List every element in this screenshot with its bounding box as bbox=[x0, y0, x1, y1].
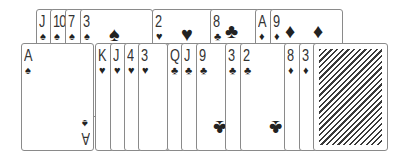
club-icon: ♣ bbox=[200, 65, 207, 76]
diamond-icon: ♦ bbox=[313, 21, 323, 41]
card-rank: 3 bbox=[83, 13, 89, 30]
card-rank: K bbox=[98, 47, 106, 64]
heart-icon: ♥ bbox=[128, 65, 135, 76]
club-icon: ♣ bbox=[229, 65, 236, 76]
heart-icon: ♥ bbox=[181, 24, 193, 44]
card-rank: 3 bbox=[228, 47, 234, 64]
heart-icon: ♥ bbox=[114, 65, 121, 76]
spade-icon: ♠ bbox=[109, 24, 120, 44]
card-rank: 9 bbox=[199, 47, 205, 64]
card-rank: 2 bbox=[155, 13, 161, 30]
diamond-icon: ♦ bbox=[259, 31, 265, 42]
card-a-spades[interactable]: A ♠ ♠ A bbox=[21, 43, 94, 151]
card-rank: Q bbox=[170, 47, 179, 64]
club-icon: ♣ bbox=[244, 65, 251, 76]
spade-icon: ♠ bbox=[54, 31, 60, 42]
card-rank: J bbox=[39, 13, 45, 30]
heart-icon: ♥ bbox=[99, 65, 106, 76]
card-rank: 8 bbox=[287, 47, 293, 64]
card-rank: 3 bbox=[302, 47, 308, 64]
spade-icon: ♠ bbox=[82, 118, 88, 129]
card-back-pattern bbox=[319, 49, 382, 145]
spade-icon: ♠ bbox=[69, 31, 75, 42]
diamond-icon: ♦ bbox=[285, 21, 295, 41]
card-rank: A bbox=[24, 47, 32, 64]
heart-icon: ♥ bbox=[156, 31, 163, 42]
spade-icon: ♠ bbox=[84, 31, 90, 42]
card-rank: J bbox=[113, 47, 119, 64]
club-icon: ♣ bbox=[185, 65, 192, 76]
card-rank: J bbox=[184, 47, 190, 64]
spade-icon: ♠ bbox=[25, 65, 31, 76]
card-rank: 4 bbox=[127, 47, 133, 64]
card-back[interactable] bbox=[313, 43, 388, 151]
club-icon: ♣ bbox=[171, 65, 178, 76]
card-rank: 7 bbox=[68, 13, 74, 30]
card-rank: A bbox=[81, 130, 90, 147]
card-rank: 9 bbox=[273, 13, 279, 30]
card-rank: 10 bbox=[53, 13, 66, 30]
club-icon: ♣ bbox=[269, 118, 282, 138]
diamond-icon: ♦ bbox=[303, 65, 309, 76]
card-rank: 2 bbox=[243, 47, 249, 64]
card-3-hearts[interactable]: 3 ♥ bbox=[138, 43, 168, 151]
diamond-icon: ♦ bbox=[288, 65, 294, 76]
diamond-icon: ♦ bbox=[274, 31, 280, 42]
card-rank: 8 bbox=[213, 13, 219, 30]
club-icon: ♣ bbox=[214, 31, 221, 42]
card-rank: 3 bbox=[141, 47, 147, 64]
card-rank: A bbox=[258, 13, 266, 30]
heart-icon: ♥ bbox=[142, 65, 149, 76]
spade-icon: ♠ bbox=[40, 31, 46, 42]
club-icon: ♣ bbox=[225, 21, 238, 41]
